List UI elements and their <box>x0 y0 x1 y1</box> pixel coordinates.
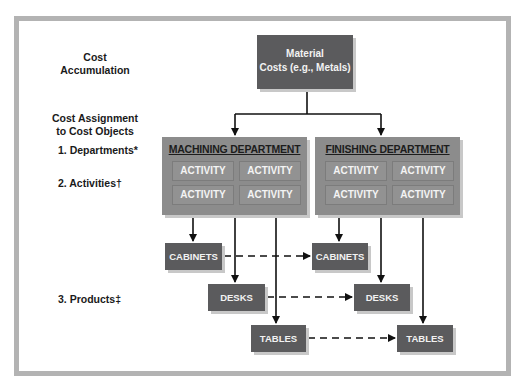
activity-box: ACTIVITY <box>392 185 454 205</box>
machining-tables-box: TABLES <box>251 325 306 352</box>
activity-box: ACTIVITY <box>239 161 301 181</box>
material-line1: Material <box>257 47 353 61</box>
activity-box: ACTIVITY <box>325 185 387 205</box>
material-costs-box: Material Costs (e.g., Metals) <box>257 35 353 89</box>
machining-cabinets-box: CABINETS <box>165 243 222 270</box>
machining-department-box: MACHINING DEPARTMENT ACTIVITY ACTIVITY A… <box>162 137 307 215</box>
activity-box: ACTIVITY <box>392 161 454 181</box>
activity-box: ACTIVITY <box>239 185 301 205</box>
material-line2: Costs (e.g., Metals) <box>257 61 353 75</box>
activity-box: ACTIVITY <box>172 161 234 181</box>
finishing-tables-box: TABLES <box>397 325 453 352</box>
finishing-cabinets-box: CABINETS <box>312 243 368 270</box>
machining-department-title: MACHINING DEPARTMENT <box>162 143 307 155</box>
finishing-department-title: FINISHING DEPARTMENT <box>315 143 460 155</box>
activity-box: ACTIVITY <box>172 185 234 205</box>
finishing-desks-box: DESKS <box>354 284 410 311</box>
activity-box: ACTIVITY <box>325 161 387 181</box>
machining-desks-box: DESKS <box>208 284 265 311</box>
finishing-department-box: FINISHING DEPARTMENT ACTIVITY ACTIVITY A… <box>315 137 460 215</box>
